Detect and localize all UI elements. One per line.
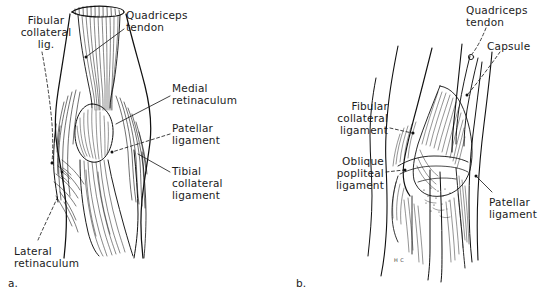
panel-caption-b: b. <box>296 277 306 289</box>
marker-fibular-collateral-b <box>412 132 415 135</box>
label-capsule-b: Capsule <box>487 40 547 52</box>
label-patellar-ligament-b: Patellar ligament <box>489 196 550 220</box>
label-tibial-collateral-ligament-a: Tibial collateral ligament <box>172 165 264 202</box>
label-lateral-retinaculum-a: Lateral retinaculum <box>14 245 118 269</box>
label-quadriceps-tendon-b: Quadriceps tendon <box>466 4 550 28</box>
label-patellar-ligament-a: Patellar ligament <box>172 122 264 146</box>
label-medial-retinaculum-a: Medial retinaculum <box>172 82 264 106</box>
anatomy-figure: Fibular collateral lig. Quadriceps tendo… <box>0 0 550 296</box>
marker-patellar-ligament-a <box>111 151 114 154</box>
label-oblique-popliteal-ligament-b: Oblique popliteal ligament <box>298 155 384 192</box>
label-quadriceps-tendon-a: Quadriceps tendon <box>126 9 222 33</box>
marker-fibular-collateral-a <box>51 162 54 165</box>
panel-caption-a: a. <box>8 277 18 289</box>
marker-capsule-b <box>466 94 469 97</box>
label-fibular-collateral-ligament-b: Fibular collateral ligament <box>304 100 388 137</box>
marker-oblique-popliteal-b <box>404 169 407 172</box>
marker-quadriceps-tendon-a <box>85 56 88 59</box>
panel-b-drawing <box>368 28 500 282</box>
label-fibular-collateral-ligament-a: Fibular collateral lig. <box>4 14 88 51</box>
marker-patellar-ligament-b <box>475 175 478 178</box>
artist-signature: H C <box>394 257 404 263</box>
